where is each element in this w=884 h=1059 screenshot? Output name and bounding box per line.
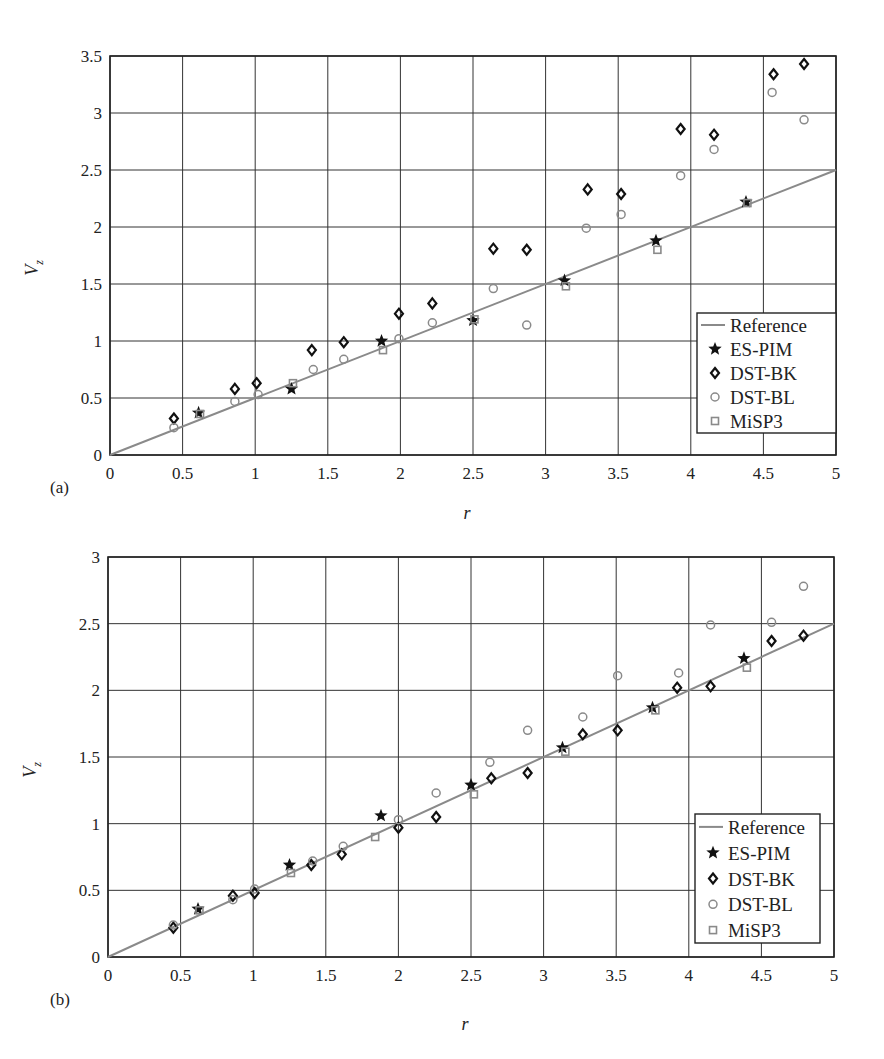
y-tick-label: 0 — [94, 446, 103, 465]
x-axis-label: r — [461, 1014, 469, 1034]
circle-marker — [524, 726, 532, 734]
x-tick-label: 0.5 — [170, 966, 191, 985]
circle-marker — [231, 397, 239, 405]
y-tick-label: 3 — [94, 104, 103, 123]
figure: 00.511.522.533.544.5500.511.522.533.5rVz… — [0, 0, 884, 1059]
panel-label: (a) — [50, 478, 69, 497]
legend-label: Reference — [730, 315, 807, 336]
legend-label: ES-PIM — [730, 339, 792, 360]
y-tick-label: 1 — [92, 815, 101, 834]
circle-marker — [582, 224, 590, 232]
diamond-marker — [489, 244, 497, 254]
series-es-pim — [192, 195, 753, 419]
x-tick-label: 4 — [685, 966, 694, 985]
y-axis-label: Vz — [20, 762, 44, 778]
x-tick-label: 0 — [106, 464, 115, 483]
x-tick-label: 3.5 — [608, 464, 629, 483]
x-tick-label: 3 — [541, 464, 550, 483]
diamond-marker — [800, 59, 808, 69]
y-tick-label: 0.5 — [79, 881, 100, 900]
x-tick-label: 1 — [251, 464, 260, 483]
circle-marker — [707, 621, 715, 629]
x-tick-label: 4 — [687, 464, 696, 483]
circle-marker — [340, 355, 348, 363]
y-tick-label: 3 — [92, 548, 101, 567]
circle-marker — [486, 758, 494, 766]
diamond-marker — [523, 245, 531, 255]
diamond-marker — [673, 683, 681, 693]
diamond-marker — [614, 725, 622, 735]
circle-marker — [614, 672, 622, 680]
x-tick-label: 2.5 — [462, 464, 483, 483]
x-axis-label: r — [463, 503, 471, 523]
circle-marker — [428, 319, 436, 327]
diamond-marker — [170, 414, 178, 424]
diamond-marker — [524, 768, 532, 778]
circle-marker — [523, 321, 531, 329]
star-marker — [374, 809, 387, 822]
x-tick-label: 5 — [830, 966, 839, 985]
legend: ReferenceES-PIMDST-BKDST-BLMiSP3 — [695, 814, 820, 943]
x-tick-label: 4.5 — [753, 464, 774, 483]
star-marker — [649, 234, 662, 247]
legend-label: DST-BK — [728, 869, 795, 890]
legend-label: ES-PIM — [728, 843, 790, 864]
diamond-marker — [432, 812, 440, 822]
circle-marker — [675, 669, 683, 677]
x-tick-label: 2 — [396, 464, 405, 483]
circle-marker — [677, 172, 685, 180]
circle-marker — [710, 145, 718, 153]
y-tick-label: 1.5 — [81, 275, 102, 294]
diamond-marker — [770, 69, 778, 79]
diamond-marker — [395, 309, 403, 319]
diamond-marker — [231, 384, 239, 394]
x-tick-label: 1.5 — [317, 464, 338, 483]
diamond-marker — [710, 130, 718, 140]
y-tick-label: 1 — [94, 332, 103, 351]
panel-label: (b) — [50, 990, 70, 1009]
diamond-marker — [584, 184, 592, 194]
legend-label: MiSP3 — [730, 411, 783, 432]
circle-marker — [768, 88, 776, 96]
y-tick-label: 0 — [92, 948, 101, 967]
circle-marker — [489, 285, 497, 293]
y-tick-label: 2.5 — [79, 615, 100, 634]
legend: ReferenceES-PIMDST-BKDST-BLMiSP3 — [697, 313, 836, 433]
x-tick-label: 1.5 — [315, 966, 336, 985]
circle-marker — [800, 582, 808, 590]
x-tick-label: 1 — [249, 966, 258, 985]
y-tick-label: 2 — [92, 681, 101, 700]
legend-label: Reference — [728, 817, 805, 838]
square-marker — [654, 246, 661, 253]
diamond-marker — [428, 298, 436, 308]
diamond-marker — [768, 636, 776, 646]
y-tick-label: 2 — [94, 218, 103, 237]
y-tick-label: 0.5 — [81, 389, 102, 408]
circle-marker — [309, 366, 317, 374]
y-axis-label: Vz — [22, 260, 46, 276]
diamond-marker — [253, 378, 261, 388]
x-tick-label: 3 — [539, 966, 548, 985]
circle-marker — [432, 789, 440, 797]
circle-marker — [768, 618, 776, 626]
y-axis-label-subscript: z — [30, 762, 44, 768]
star-marker — [375, 334, 388, 347]
x-tick-label: 4.5 — [751, 966, 772, 985]
x-tick-label: 0 — [104, 966, 113, 985]
y-axis-label-subscript: z — [32, 260, 46, 266]
y-tick-label: 2.5 — [81, 161, 102, 180]
series-misp3 — [197, 200, 751, 418]
legend-label: MiSP3 — [728, 920, 781, 941]
diamond-marker — [308, 345, 316, 355]
x-tick-label: 2.5 — [460, 966, 481, 985]
x-tick-label: 3.5 — [606, 966, 627, 985]
legend-label: DST-BL — [730, 387, 795, 408]
legend-label: DST-BL — [728, 894, 793, 915]
circle-marker — [800, 116, 808, 124]
legend-label: DST-BK — [730, 363, 797, 384]
x-tick-label: 5 — [832, 464, 841, 483]
chart-panel-a: 00.511.522.533.544.5500.511.522.533.5rVz… — [22, 47, 840, 523]
y-tick-label: 3.5 — [81, 47, 102, 66]
y-tick-label: 1.5 — [79, 748, 100, 767]
diamond-marker — [677, 124, 685, 134]
